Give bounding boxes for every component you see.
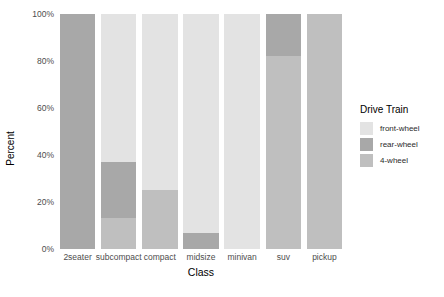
bar-midsize[interactable] xyxy=(183,14,218,249)
bar-segment-2seater-rear-wheel[interactable] xyxy=(60,14,95,249)
legend-label-rear-wheel: rear-wheel xyxy=(380,140,418,149)
bar-compact[interactable] xyxy=(142,14,177,249)
legend-swatch-4-wheel xyxy=(360,154,373,167)
x-tick-label-compact: compact xyxy=(144,252,176,262)
bar-minivan[interactable] xyxy=(224,14,259,249)
bar-pickup[interactable] xyxy=(307,14,342,249)
y-tick-label: 80% xyxy=(8,56,54,66)
bar-segment-suv-4-wheel[interactable] xyxy=(266,56,301,249)
x-axis-title: Class xyxy=(57,266,345,278)
bar-segment-midsize-front-wheel[interactable] xyxy=(183,14,218,233)
bar-segment-compact-front-wheel[interactable] xyxy=(142,14,177,190)
bar-segment-compact-4-wheel[interactable] xyxy=(142,190,177,249)
legend-item-rear-wheel[interactable]: rear-wheel xyxy=(360,137,444,152)
bar-segment-minivan-front-wheel[interactable] xyxy=(224,14,259,249)
legend-item-front-wheel[interactable]: front-wheel xyxy=(360,121,444,136)
x-tick-label-subcompact: subcompact xyxy=(96,252,142,262)
chart-root: Percent 0%20%40%60%80%100% 2seatersubcom… xyxy=(0,0,444,297)
x-tick-label-pickup: pickup xyxy=(312,252,337,262)
x-tick-label-2seater: 2seater xyxy=(63,252,91,262)
y-tick-label: 20% xyxy=(8,197,54,207)
bar-subcompact[interactable] xyxy=(101,14,136,249)
bar-segment-subcompact-front-wheel[interactable] xyxy=(101,14,136,162)
y-axis-tick-labels: 0%20%40%60%80%100% xyxy=(0,0,54,297)
x-tick-label-suv: suv xyxy=(277,252,290,262)
legend-label-front-wheel: front-wheel xyxy=(380,124,420,133)
y-tick-label: 0% xyxy=(8,244,54,254)
legend-item-4-wheel[interactable]: 4-wheel xyxy=(360,153,444,168)
bar-segment-midsize-rear-wheel[interactable] xyxy=(183,233,218,249)
bar-segment-suv-rear-wheel[interactable] xyxy=(266,14,301,56)
x-tick-label-midsize: midsize xyxy=(187,252,216,262)
bar-2seater[interactable] xyxy=(60,14,95,249)
legend: Drive Train front-wheelrear-wheel4-wheel xyxy=(360,104,444,169)
plot-area xyxy=(57,14,345,249)
x-tick-label-minivan: minivan xyxy=(227,252,256,262)
y-tick-label: 100% xyxy=(8,9,54,19)
legend-label-4-wheel: 4-wheel xyxy=(380,156,408,165)
y-tick-label: 60% xyxy=(8,103,54,113)
legend-items: front-wheelrear-wheel4-wheel xyxy=(360,121,444,168)
bar-segment-pickup-4-wheel[interactable] xyxy=(307,14,342,249)
bar-segment-subcompact-4-wheel[interactable] xyxy=(101,218,136,249)
legend-title: Drive Train xyxy=(360,104,444,115)
legend-swatch-rear-wheel xyxy=(360,138,373,151)
bar-suv[interactable] xyxy=(266,14,301,249)
legend-swatch-front-wheel xyxy=(360,122,373,135)
y-tick-label: 40% xyxy=(8,150,54,160)
bar-segment-subcompact-rear-wheel[interactable] xyxy=(101,162,136,218)
